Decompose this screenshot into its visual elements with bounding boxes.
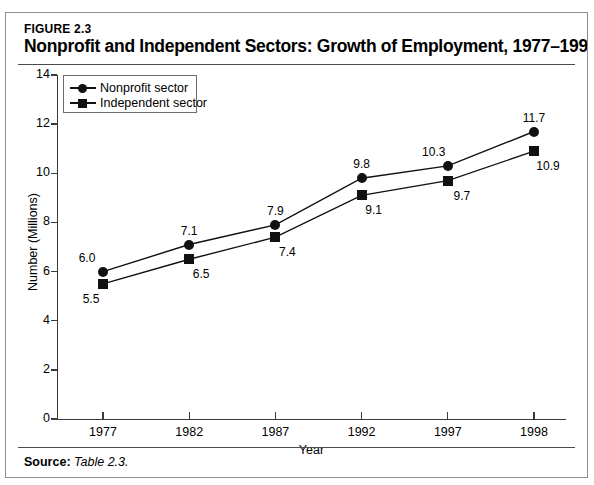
legend-square-marker-icon xyxy=(70,97,96,109)
legend-item-independent: Independent sector xyxy=(70,95,207,110)
source-prefix: Source: xyxy=(24,455,71,469)
data-point-marker xyxy=(357,173,367,183)
data-point-marker xyxy=(443,176,453,186)
figure-container: FIGURE 2.3 Nonprofit and Independent Sec… xyxy=(5,12,588,478)
data-point-marker xyxy=(529,127,539,137)
legend-label-nonprofit: Nonprofit sector xyxy=(100,81,188,95)
source-reference: Table 2.3. xyxy=(74,455,128,469)
chart-legend: Nonprofit sector Independent sector xyxy=(63,75,197,113)
data-point-marker xyxy=(529,146,539,156)
data-point-marker xyxy=(357,190,367,200)
legend-label-independent: Independent sector xyxy=(100,96,207,110)
data-point-label: 11.7 xyxy=(504,111,564,125)
data-point-label: 7.1 xyxy=(159,224,219,238)
source-divider xyxy=(18,447,575,448)
legend-item-nonprofit: Nonprofit sector xyxy=(70,80,188,95)
data-point-marker xyxy=(184,254,194,264)
data-point-label: 9.8 xyxy=(332,157,392,171)
data-point-label: 7.9 xyxy=(245,204,305,218)
data-point-marker xyxy=(184,240,194,250)
data-point-marker xyxy=(98,279,108,289)
data-point-label: 5.5 xyxy=(61,292,121,306)
data-point-label: 9.1 xyxy=(344,203,404,217)
legend-circle-marker-icon xyxy=(70,82,96,94)
data-point-marker xyxy=(443,161,453,171)
data-point-label: 7.4 xyxy=(257,245,317,259)
data-point-label: 9.7 xyxy=(432,189,492,203)
data-point-marker xyxy=(98,267,108,277)
chart-plot-area: Number (Millions) Year 02468101214 19771… xyxy=(6,13,588,478)
data-point-label: 6.5 xyxy=(171,267,231,281)
source-note: Source: Table 2.3. xyxy=(24,455,128,469)
data-point-marker xyxy=(270,232,280,242)
data-point-label: 10.9 xyxy=(518,159,578,173)
data-point-label: 10.3 xyxy=(404,145,464,159)
data-point-label: 6.0 xyxy=(57,251,117,265)
